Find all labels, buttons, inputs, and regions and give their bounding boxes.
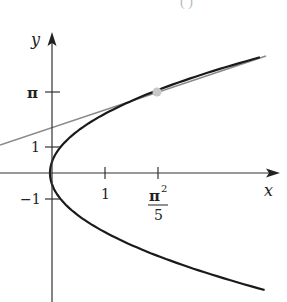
y-tick-label-pi: π (27, 84, 38, 102)
y-axis-label: y (30, 30, 41, 49)
x-axis-label: x (264, 181, 273, 200)
x-tick-label-den: 5 (154, 207, 163, 223)
y-tick-label-1: 1 (31, 139, 40, 155)
y-tick-label-neg1: −1 (20, 191, 41, 207)
x-tick-label-pi: π (149, 187, 160, 205)
x-tick-label-1: 1 (101, 186, 110, 202)
x-tick-label-exp: 2 (161, 183, 167, 194)
plot-area: y x 1 π 2 5 π 1 −1 (0, 0, 287, 302)
tangency-point (153, 88, 162, 97)
